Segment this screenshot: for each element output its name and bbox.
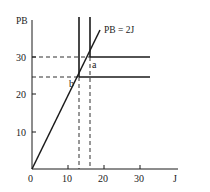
diagram-svg: PB J PB = 2J 10 20 30 0 10 20 30 a b — [0, 0, 210, 192]
y-tick-label-30: 30 — [16, 52, 26, 63]
x-tick-label-30: 30 — [134, 173, 144, 184]
x-tick-label-0: 0 — [28, 173, 33, 184]
y-axis-label: PB — [16, 16, 28, 26]
x-tick-label-20: 20 — [98, 173, 108, 184]
diagram-canvas: PB J PB = 2J 10 20 30 0 10 20 30 a b — [0, 0, 210, 192]
x-axis-label: J — [173, 173, 177, 184]
y-tick-label-20: 20 — [16, 89, 26, 100]
point-label-b: b — [69, 78, 74, 89]
x-tick-label-10: 10 — [62, 173, 72, 184]
line-label: PB = 2J — [104, 25, 134, 35]
y-tick-label-10: 10 — [16, 127, 26, 138]
point-label-a: a — [92, 59, 97, 70]
